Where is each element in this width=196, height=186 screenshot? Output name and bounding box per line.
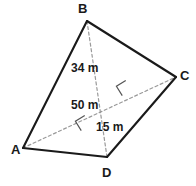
diagonals-group xyxy=(23,21,176,157)
vertex-label-B: B xyxy=(78,2,87,15)
vertex-label-C: C xyxy=(180,69,189,82)
vertex-label-D: D xyxy=(102,166,111,179)
right-angle-lower-icon xyxy=(75,115,84,130)
measure-label-height-from-B: 34 m xyxy=(71,62,98,74)
vertex-label-A: A xyxy=(11,143,20,156)
diagonal-BD xyxy=(87,21,107,157)
diagonal-AC xyxy=(23,77,176,148)
side-BC xyxy=(87,21,176,77)
figure-canvas xyxy=(0,0,196,186)
sides-group xyxy=(23,21,176,157)
measure-label-height-from-D: 15 m xyxy=(96,121,123,133)
measure-label-diagonal-AC: 50 m xyxy=(71,99,98,111)
right-angle-upper-icon xyxy=(116,80,125,95)
side-DA xyxy=(23,148,107,157)
side-AB xyxy=(23,21,87,148)
geometry-figure: B C D A 34 m 50 m 15 m xyxy=(0,0,196,186)
side-CD xyxy=(107,77,176,157)
